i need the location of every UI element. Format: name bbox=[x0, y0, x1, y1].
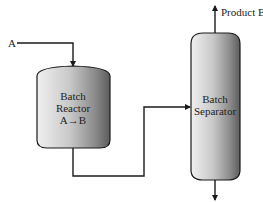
reactor-label-line1: Batch bbox=[60, 90, 86, 102]
separator-label-line2: Separator bbox=[194, 105, 236, 117]
process-diagram: A Batch Reactor A→B Batch Separator Prod… bbox=[0, 0, 263, 202]
separator-label-line1: Batch bbox=[202, 93, 228, 105]
batch-separator-vessel: Batch Separator bbox=[191, 33, 240, 180]
reactor-label-line2: Reactor bbox=[56, 102, 91, 114]
feed-stream-arrow bbox=[17, 43, 73, 66]
batch-reactor-vessel: Batch Reactor A→B bbox=[37, 66, 110, 148]
product-b-label: Product B bbox=[221, 6, 263, 18]
reactor-reaction-label: A→B bbox=[60, 114, 86, 126]
feed-label: A bbox=[8, 37, 16, 49]
